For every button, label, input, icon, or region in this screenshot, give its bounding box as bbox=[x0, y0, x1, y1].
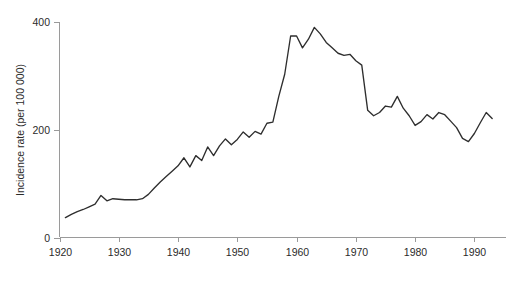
y-axis-tick-labels: 0200400 bbox=[32, 16, 50, 244]
x-axis-ticks bbox=[61, 238, 475, 243]
chart-container: 0200400 19201930194019501960197019801990… bbox=[0, 0, 520, 284]
y-tick-label: 400 bbox=[32, 16, 50, 28]
x-tick-label: 1970 bbox=[345, 246, 369, 258]
x-tick-label: 1960 bbox=[286, 246, 310, 258]
x-tick-label: 1930 bbox=[108, 246, 132, 258]
x-tick-label: 1920 bbox=[49, 246, 73, 258]
y-tick-label: 200 bbox=[32, 124, 50, 136]
x-tick-label: 1990 bbox=[463, 246, 487, 258]
x-tick-label: 1980 bbox=[404, 246, 428, 258]
y-axis-title: Incidence rate (per 100 000) bbox=[14, 64, 26, 196]
x-tick-label: 1940 bbox=[167, 246, 191, 258]
y-tick-label: 0 bbox=[44, 232, 50, 244]
x-tick-label: 1950 bbox=[226, 246, 250, 258]
x-axis-tick-labels: 19201930194019501960197019801990 bbox=[49, 246, 487, 258]
y-axis-ticks bbox=[54, 23, 60, 239]
data-series-line bbox=[65, 27, 492, 217]
line-chart: 0200400 19201930194019501960197019801990… bbox=[0, 0, 520, 284]
